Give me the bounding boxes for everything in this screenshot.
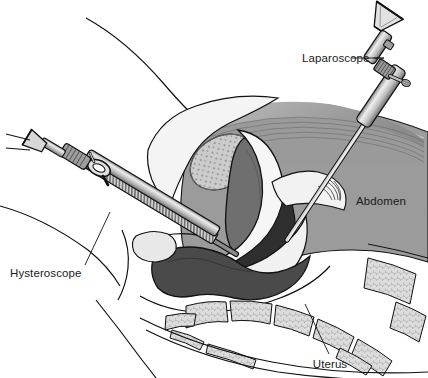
medical-illustration-figure: Laparoscope Abdomen Hysteroscope Uterus — [0, 0, 428, 378]
pubic-bone — [132, 231, 176, 262]
label-laparoscope: Laparoscope — [302, 52, 370, 64]
label-abdomen: Abdomen — [356, 195, 406, 207]
eyepiece-icon — [22, 129, 48, 155]
label-hysteroscope: Hysteroscope — [10, 267, 82, 279]
label-uterus: Uterus — [313, 358, 348, 370]
illustration-artwork: Laparoscope Abdomen Hysteroscope Uterus — [0, 1, 428, 378]
leader-hysteroscope — [85, 212, 110, 265]
illustration-canvas: Laparoscope Abdomen Hysteroscope Uterus — [0, 0, 428, 378]
